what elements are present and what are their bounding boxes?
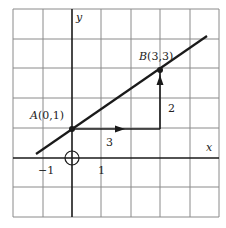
point-B-label: B(3,3) <box>138 50 173 63</box>
coordinate-diagram: y x −1 1 A(0,1) B(3,3) 3 2 <box>0 0 226 228</box>
point-A <box>69 126 75 132</box>
run-arrowhead-icon <box>115 126 125 133</box>
y-axis-label: y <box>75 11 83 24</box>
tick-neg-one: −1 <box>38 164 54 177</box>
rise-arrowhead-icon <box>157 75 164 85</box>
tick-one: 1 <box>98 164 105 177</box>
point-B-coords: (3,3) <box>147 50 173 63</box>
point-B-name: B <box>138 50 147 63</box>
point-A-coords: (0,1) <box>38 109 64 122</box>
run-label: 3 <box>106 136 113 149</box>
point-A-label: A(0,1) <box>29 109 64 122</box>
rise-label: 2 <box>168 102 175 115</box>
point-B <box>157 67 163 73</box>
point-A-name: A <box>29 109 38 122</box>
line-through-A-B <box>36 36 207 154</box>
x-axis-label: x <box>206 141 213 154</box>
